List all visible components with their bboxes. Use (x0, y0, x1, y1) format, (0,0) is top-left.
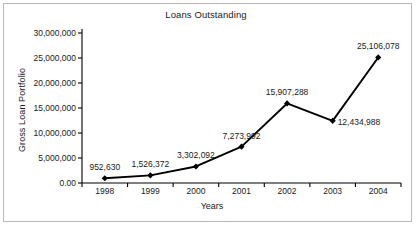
plot-area (0, 0, 420, 230)
line-chart: Loans Outstanding Gross Loan Portfolio 0… (0, 0, 420, 230)
data-point-marker (102, 175, 108, 181)
series-line (105, 57, 378, 178)
data-point-marker (147, 172, 153, 178)
data-point-marker (193, 163, 199, 169)
